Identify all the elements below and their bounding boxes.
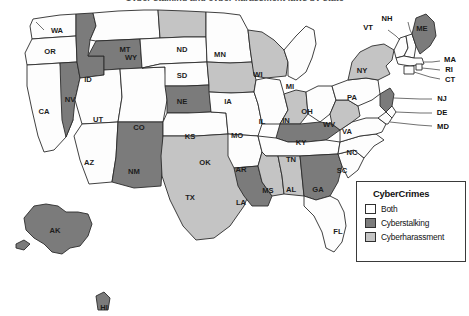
state-label-OR: OR [44, 47, 56, 56]
state-label-FL: FL [333, 227, 343, 236]
state-label-NY: NY [357, 66, 368, 75]
leader-line-MD [390, 122, 432, 126]
state-label-NM: NM [128, 167, 140, 176]
map-legend: CyberCrimes Both Cyberstalking Cyberhara… [356, 181, 466, 262]
state-label-IL: IL [259, 117, 266, 126]
state-label-RI: RI [445, 65, 453, 74]
state-label-OH: OH [301, 107, 312, 116]
leader-line-MA [424, 61, 440, 62]
state-label-AZ: AZ [84, 158, 94, 167]
state-label-TN: TN [286, 155, 296, 164]
state-label-ME: ME [416, 24, 427, 33]
legend-swatch-both [365, 204, 376, 214]
legend-title: CyberCrimes [373, 188, 465, 199]
state-label-IA: IA [224, 97, 232, 106]
state-NY[interactable] [348, 44, 394, 80]
state-label-VT: VT [363, 23, 373, 32]
state-label-NJ: NJ [437, 94, 447, 103]
state-label-MD: MD [437, 122, 449, 131]
state-MN[interactable] [206, 12, 252, 63]
state-label-NV: NV [65, 95, 76, 104]
state-label-KY: KY [296, 138, 307, 147]
state-label-CO: CO [133, 123, 144, 132]
state-label-AR: AR [236, 165, 247, 174]
state-label-WY: WY [125, 53, 137, 62]
state-AK-aleutians[interactable] [16, 240, 30, 250]
leader-line-NH [408, 22, 412, 34]
legend-item-cyberstalking[interactable]: Cyberstalking [365, 218, 465, 228]
legend-item-cyberharassment[interactable]: Cyberharassment [365, 232, 465, 242]
legend-swatch-cyberstalking [365, 218, 376, 228]
state-label-WI: WI [253, 70, 262, 79]
map-figure: Cyber stalking and cyber harassment laws… [0, 0, 469, 316]
state-RI[interactable] [416, 64, 422, 70]
state-label-NH: NH [382, 14, 393, 23]
state-IA[interactable] [207, 62, 256, 93]
state-label-PA: PA [347, 93, 358, 102]
state-MT[interactable] [90, 10, 160, 41]
legend-item-both[interactable]: Both [365, 204, 465, 214]
state-label-MN: MN [214, 50, 226, 59]
state-label-UT: UT [93, 115, 103, 124]
state-label-WA: WA [51, 26, 64, 35]
state-label-OK: OK [199, 158, 211, 167]
state-label-ND: ND [177, 45, 188, 54]
state-label-SD: SD [177, 71, 188, 80]
state-label-VA: VA [342, 127, 353, 136]
legend-label-cyberharassment: Cyberharassment [381, 232, 444, 242]
state-label-MO: MO [231, 131, 243, 140]
state-label-DE: DE [437, 108, 448, 117]
state-label-AL: AL [286, 185, 296, 194]
state-label-SC: SC [337, 166, 348, 175]
leader-line-CT [414, 72, 440, 79]
state-FL[interactable] [304, 196, 346, 252]
state-label-GA: GA [312, 185, 324, 194]
state-label-LA: LA [236, 198, 247, 207]
state-label-MI: MI [286, 82, 294, 91]
state-label-ID: ID [84, 75, 92, 84]
state-label-AK: AK [50, 226, 61, 235]
leader-line-VT [388, 30, 400, 40]
state-CT[interactable] [404, 66, 414, 74]
leader-line-NJ [394, 98, 432, 99]
state-label-IN: IN [282, 116, 290, 125]
state-label-MS: MS [262, 186, 273, 195]
state-label-CA: CA [39, 107, 50, 116]
state-MI[interactable] [284, 26, 316, 80]
state-OK[interactable] [163, 112, 228, 136]
leader-line-DE [396, 112, 432, 113]
state-label-NE: NE [177, 97, 188, 106]
state-label-KS: KS [185, 132, 196, 141]
state-ND[interactable] [158, 10, 206, 38]
legend-swatch-cyberharassment [365, 232, 376, 242]
legend-label-cyberstalking: Cyberstalking [381, 218, 429, 228]
state-label-HI: HI [100, 303, 108, 312]
legend-label-both: Both [381, 204, 397, 214]
state-label-NC: NC [347, 148, 358, 157]
state-CO[interactable] [118, 67, 167, 122]
state-label-TX: TX [185, 193, 195, 202]
state-KS[interactable] [165, 85, 211, 113]
state-label-WV: WV [323, 120, 336, 129]
state-AZ[interactable] [74, 122, 118, 184]
state-label-MA: MA [444, 55, 456, 64]
state-label-CT: CT [445, 75, 455, 84]
us-choropleth-map: WA OR CA NV ID MT WY UT CO AZ NM ND SD N… [0, 0, 469, 316]
leader-line-RI [422, 68, 440, 70]
